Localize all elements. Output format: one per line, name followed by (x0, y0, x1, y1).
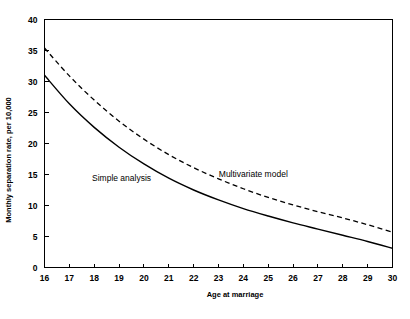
x-tick-label: 24 (239, 273, 249, 283)
x-tick-label: 21 (164, 273, 174, 283)
x-tick-label: 17 (65, 273, 75, 283)
x-axis-tick-labels: 161718192021222324252627282930 (40, 273, 398, 283)
y-tick-label: 40 (28, 15, 38, 25)
x-tick-label: 23 (214, 273, 224, 283)
line-chart: 161718192021222324252627282930 051015202… (0, 0, 410, 319)
y-tick-label: 15 (28, 170, 38, 180)
y-tick-label: 5 (33, 232, 38, 242)
x-tick-label: 26 (288, 273, 298, 283)
y-tick-label: 10 (28, 201, 38, 211)
y-tick-label: 25 (28, 108, 38, 118)
series-line-simple-analysis (45, 75, 393, 248)
x-tick-label: 22 (189, 273, 199, 283)
x-tick-label: 20 (139, 273, 149, 283)
x-tick-label: 27 (313, 273, 323, 283)
y-tick-label: 35 (28, 46, 38, 56)
x-tick-label: 30 (388, 273, 398, 283)
figure-container: 161718192021222324252627282930 051015202… (0, 0, 410, 319)
x-tick-label: 29 (363, 273, 373, 283)
x-tick-label: 16 (40, 273, 50, 283)
plot-frame (45, 20, 393, 268)
plot-axes-frame (45, 20, 393, 268)
y-tick-label: 20 (28, 139, 38, 149)
x-axis-title: Age at marriage (207, 290, 264, 299)
y-axis-tick-marks (45, 20, 49, 268)
series-label-multivariate-model: Multivariate model (219, 169, 288, 179)
y-axis-tick-labels: 0510152025303540 (28, 15, 38, 273)
x-axis-tick-marks (45, 264, 393, 268)
x-tick-label: 28 (338, 273, 348, 283)
x-tick-label: 25 (263, 273, 273, 283)
x-tick-label: 18 (89, 273, 99, 283)
y-tick-label: 30 (28, 77, 38, 87)
series-label-simple-analysis: Simple analysis (92, 173, 151, 183)
series-line-multivariate-model (45, 48, 393, 232)
x-tick-label: 19 (114, 273, 124, 283)
y-axis-title: Monthly separation rate, per 10,000 (4, 97, 13, 222)
y-tick-label: 0 (33, 263, 38, 273)
